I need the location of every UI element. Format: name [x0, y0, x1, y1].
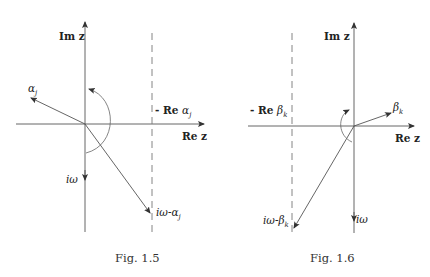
figure-1-6: Im z Re z - Re βk βk iω iω-βk Fig. 1.6 — [248, 23, 420, 265]
dashed-line-label: - Re αj — [155, 104, 192, 119]
vector-i-omega-minus-alpha-label: iω-αj — [156, 206, 182, 221]
dashed-line-label: - Re βk — [250, 104, 287, 119]
vector-i-omega-minus-beta — [294, 126, 354, 228]
diagram-canvas: Im z Re z - Re αj αj iω iω-αj Fig. 1.5 — [0, 0, 430, 277]
figure-caption: Fig. 1.6 — [310, 251, 355, 265]
real-axis-label: Re z — [182, 130, 207, 142]
vector-i-omega-label: iω — [66, 173, 78, 185]
vector-alpha-j — [31, 98, 85, 124]
vector-alpha-label: αj — [28, 82, 38, 97]
figure-caption: Fig. 1.5 — [115, 251, 160, 265]
figure-1-5: Im z Re z - Re αj αj iω iω-αj Fig. 1.5 — [16, 22, 207, 265]
angle-arc — [86, 89, 110, 153]
vector-beta-label: βk — [392, 101, 403, 116]
vector-beta-k — [354, 113, 391, 126]
vector-i-omega-minus-beta-label: iω-βk — [263, 214, 289, 229]
imaginary-axis-label: Im z — [324, 30, 350, 42]
real-axis-label: Re z — [395, 132, 420, 144]
vector-i-omega-minus-alpha — [85, 124, 150, 213]
vector-i-omega-label: iω — [356, 213, 368, 225]
imaginary-axis-label: Im z — [59, 30, 85, 42]
